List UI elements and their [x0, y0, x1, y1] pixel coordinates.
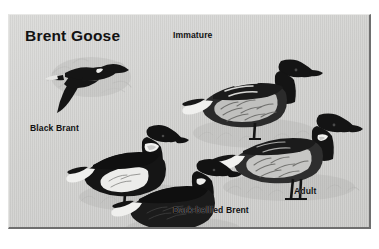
label-immature: Immature	[173, 30, 213, 40]
dark-bellied-brent-goose-figure	[111, 153, 256, 229]
label-adult: Adult	[294, 186, 316, 196]
page-title: Brent Goose	[25, 27, 120, 45]
dark-bellied-brent-body	[111, 159, 242, 229]
label-black-brant: Black Brant	[30, 123, 79, 133]
bird-plate-frame: Brent Goose Immature Black Brant Dark-be…	[8, 14, 371, 229]
flying-goose-figure	[39, 43, 149, 131]
label-dark-bellied-brent: Dark-bellied Brent	[173, 205, 249, 215]
